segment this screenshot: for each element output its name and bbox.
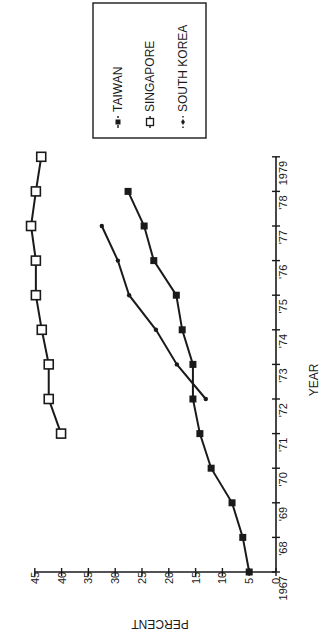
percent-tick-label: 10 [216,572,228,584]
percent-tick-label: 30 [109,572,121,584]
percent-tick-label: 45 [29,572,41,584]
legend: TAIWANSINGAPORESOUTH KOREA [93,3,206,138]
taiwan-marker [189,361,196,368]
singapore-marker [31,256,40,265]
year-tick-label: 1979 [277,161,289,185]
year-tick-label: '71 [277,438,289,452]
year-tick-label: '69 [277,507,289,521]
year-tick-label: '76 [277,265,289,279]
taiwan-marker [179,326,186,333]
taiwan-marker [196,430,203,437]
taiwan-marker [141,223,148,230]
percent-tick-label: 5 [243,578,255,584]
taiwan-marker [189,396,196,403]
legend-taiwan-label: TAIWAN [111,67,125,112]
singapore-marker [44,395,53,404]
singapore-marker [37,325,46,334]
singapore-marker [27,222,36,231]
singapore-marker [31,187,40,196]
singapore-marker [57,429,66,438]
south-korea-marker [116,258,120,262]
x-axis-label: YEAR [307,363,321,396]
legend-south-korea-marker-icon [181,120,185,124]
singapore-marker [44,360,53,369]
year-tick-label: '73 [277,368,289,382]
taiwan-marker [208,465,215,472]
percent-tick-label: 20 [163,572,175,584]
legend-taiwan-marker-icon [116,120,121,125]
percent-tick-label: 40 [56,572,68,584]
percent-tick-label: 0 [270,578,282,584]
taiwan-line [128,191,249,572]
year-tick-label: '72 [277,403,289,417]
taiwan-marker [246,569,253,576]
south-korea-marker [204,397,208,401]
south-korea-marker [100,224,104,228]
year-tick-label: '70 [277,472,289,486]
year-tick-label: '74 [277,334,289,348]
axes: 1967'68'69'70'71'72'73'74'75'76'77'78197… [29,157,289,601]
year-tick-label: '77 [277,230,289,244]
south-korea-marker [154,328,158,332]
taiwan-marker [125,188,132,195]
south-korea-marker [175,362,179,366]
year-tick-label: '78 [277,195,289,209]
singapore-marker [31,291,40,300]
percent-tick-label: 35 [82,572,94,584]
chart-canvas: 1967'68'69'70'71'72'73'74'75'76'77'78197… [0,0,336,639]
year-tick-label: '75 [277,299,289,313]
series-layer [27,152,253,575]
south-korea-marker [127,293,131,297]
rotated-line-chart: 1967'68'69'70'71'72'73'74'75'76'77'78197… [0,0,336,639]
legend-south-korea-label: SOUTH KOREA [176,25,190,112]
singapore-marker [37,152,46,161]
south-korea-line [102,226,206,399]
legend-singapore-marker-icon [147,119,154,126]
taiwan-marker [150,257,157,264]
y-axis-label: PERCENT [131,617,189,631]
legend-singapore-label: SINGAPORE [143,41,157,112]
percent-tick-label: 25 [136,572,148,584]
percent-tick-label: 15 [190,572,202,584]
taiwan-marker [229,499,236,506]
taiwan-marker [239,534,246,541]
year-tick-label: '68 [277,541,289,555]
taiwan-marker [173,292,180,299]
